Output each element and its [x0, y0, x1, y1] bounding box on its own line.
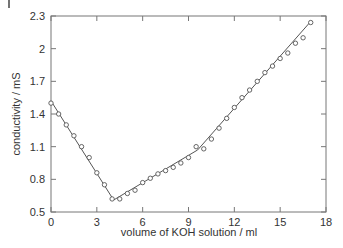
data-point	[194, 144, 198, 148]
data-point	[156, 172, 160, 176]
data-point	[263, 70, 267, 74]
data-point	[286, 51, 290, 55]
x-axis: 0369121518	[48, 16, 332, 228]
y-tick-label: 2.3	[30, 10, 45, 22]
y-tick-label: 0.8	[30, 173, 45, 185]
data-point	[186, 155, 190, 159]
data-point	[179, 161, 183, 165]
plot-frame	[51, 16, 326, 212]
data-point	[148, 176, 152, 180]
data-point	[270, 64, 274, 68]
data-point	[140, 180, 144, 184]
data-point	[56, 112, 60, 116]
data-point	[171, 165, 175, 169]
data-point	[232, 105, 236, 109]
data-point	[72, 134, 76, 138]
x-tick-label: 15	[274, 216, 286, 228]
data-point	[64, 123, 68, 127]
x-tick-label: 0	[48, 216, 54, 228]
y-axis: 0.50.81.11.41.722.3	[30, 10, 326, 218]
data-point	[255, 79, 259, 83]
data-point	[133, 188, 137, 192]
data-point	[125, 191, 129, 195]
y-tick-label: 1.1	[30, 141, 45, 153]
data-point	[49, 101, 53, 105]
data-point	[102, 183, 106, 187]
data-point	[278, 56, 282, 60]
data-point	[95, 171, 99, 175]
fit-line	[51, 21, 311, 200]
data-point	[110, 197, 114, 201]
x-tick-label: 3	[94, 216, 100, 228]
data-point	[240, 95, 244, 99]
x-axis-label: volume of KOH solution / ml	[121, 226, 257, 238]
y-axis-label: conductivity / mS	[10, 72, 22, 155]
data-point	[79, 144, 83, 148]
y-tick-label: 2	[39, 43, 45, 55]
data-point	[163, 168, 167, 172]
chart: 0369121518 0.50.81.11.41.722.3 volume of…	[0, 0, 343, 248]
data-point	[247, 88, 251, 92]
data-point	[87, 155, 91, 159]
y-tick-label: 1.7	[30, 75, 45, 87]
data-point	[209, 137, 213, 141]
data-point	[301, 36, 305, 40]
y-tick-label: 0.5	[30, 206, 45, 218]
data-point	[293, 41, 297, 45]
data-points	[49, 20, 313, 201]
data-point	[118, 197, 122, 201]
data-point	[309, 20, 313, 24]
y-tick-label: 1.4	[30, 108, 45, 120]
data-point	[202, 147, 206, 151]
data-point	[224, 116, 228, 120]
data-point	[217, 126, 221, 130]
x-tick-label: 18	[320, 216, 332, 228]
